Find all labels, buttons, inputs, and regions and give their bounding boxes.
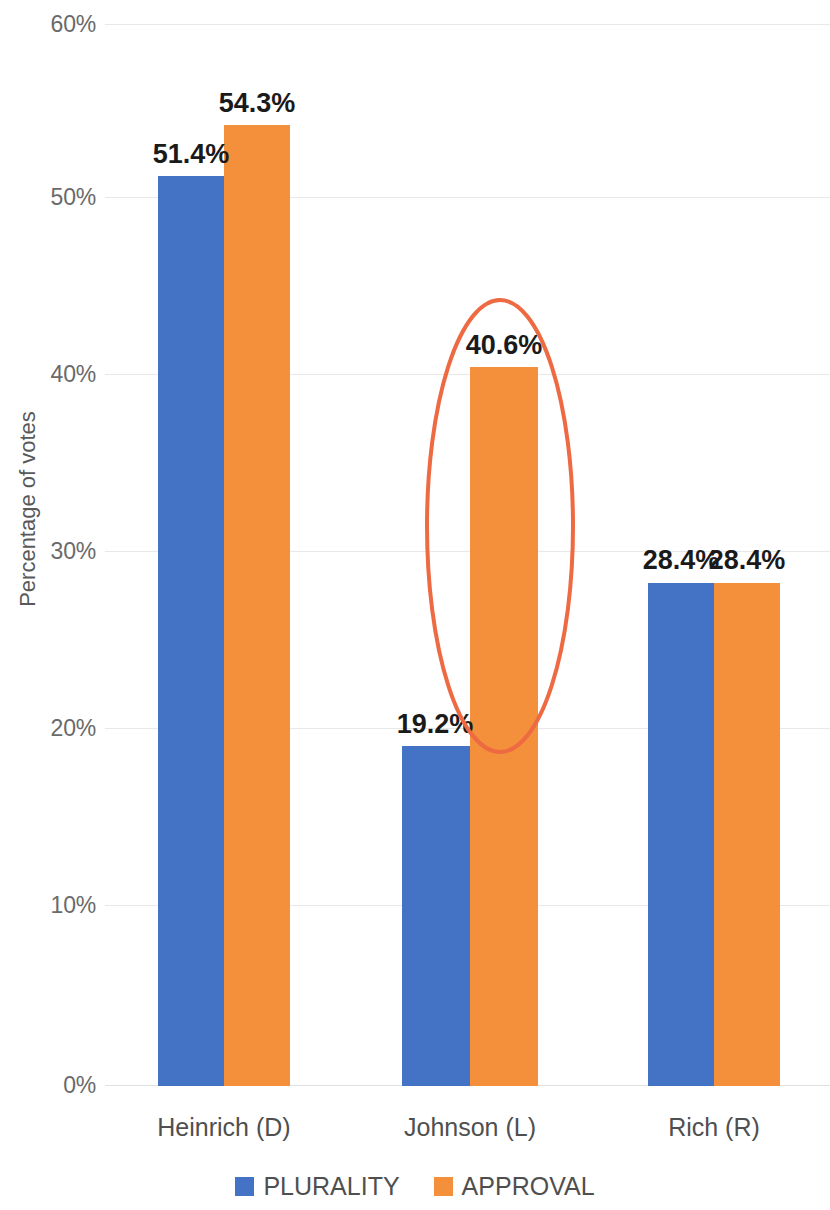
bar-value-johnson-approval: 40.6%	[441, 332, 567, 359]
legend-item-plurality: PLURALITY	[235, 1174, 399, 1199]
bar-rich-plurality	[648, 583, 714, 1086]
bar-heinrich-approval	[224, 125, 290, 1086]
y-tick-60: 60%	[18, 13, 96, 36]
y-tick-0: 0%	[18, 1074, 96, 1097]
y-tick-50: 50%	[18, 186, 96, 209]
x-tick-johnson: Johnson (L)	[350, 1113, 590, 1142]
x-tick-rich: Rich (R)	[594, 1113, 830, 1142]
y-tick-40: 40%	[18, 363, 96, 386]
legend-swatch-plurality-icon	[235, 1177, 254, 1196]
legend-swatch-approval-icon	[434, 1177, 453, 1196]
x-tick-heinrich: Heinrich (D)	[104, 1113, 344, 1142]
bar-chart: 60% 50% 40% 30% 20% 10% 0% Percentage of…	[0, 0, 830, 1210]
gridline-60	[105, 24, 830, 25]
y-axis-title: Percentage of votes	[15, 389, 41, 629]
y-tick-20: 20%	[18, 717, 96, 740]
bar-value-heinrich-approval: 54.3%	[194, 90, 320, 117]
bar-johnson-plurality	[402, 746, 470, 1086]
bar-value-johnson-plurality: 19.2%	[372, 711, 498, 738]
legend-label-plurality: PLURALITY	[263, 1174, 399, 1199]
chart-legend: PLURALITY APPROVAL	[0, 1174, 830, 1199]
bar-value-rich-approval: 28.4%	[684, 547, 810, 574]
y-tick-10: 10%	[18, 894, 96, 917]
bar-value-heinrich-plurality: 51.4%	[128, 141, 254, 168]
bar-heinrich-plurality	[158, 176, 224, 1086]
legend-item-approval: APPROVAL	[434, 1174, 595, 1199]
legend-label-approval: APPROVAL	[462, 1174, 595, 1199]
bar-rich-approval	[714, 583, 780, 1086]
